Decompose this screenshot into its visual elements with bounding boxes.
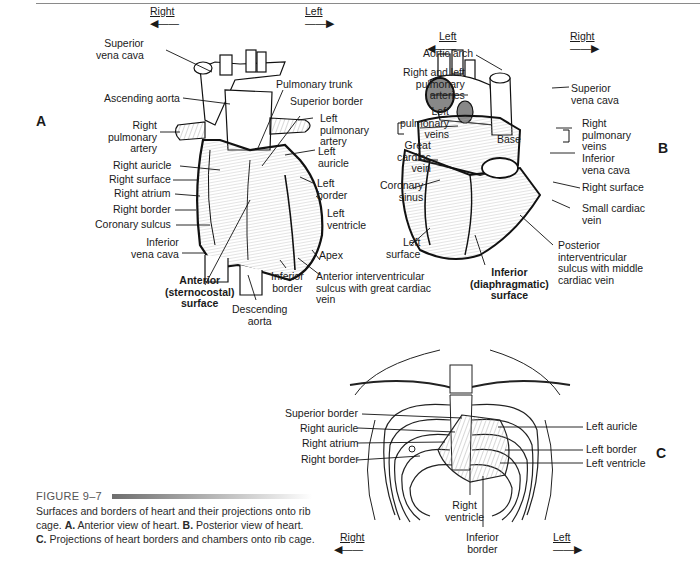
label-left-pulmonary-artery: Left pulmonary artery xyxy=(320,113,369,148)
figure-number-row: FIGURE 9–7 xyxy=(36,490,316,502)
label-inferior-border-c: Inferior border xyxy=(466,532,499,555)
label-posterior-interventricular-sulcus: Posterior interventricular sulcus with m… xyxy=(558,240,643,286)
label-anterior-interventricular-sulcus: Anterior interventricular sulcus with gr… xyxy=(316,271,431,306)
figure-caption-text: Surfaces and borders of heart and their … xyxy=(36,504,315,546)
label-right-auricle-c: Right auricle xyxy=(300,423,358,435)
label-left-auricle-c: Left auricle xyxy=(586,421,637,433)
label-right-surface-b: Right surface xyxy=(582,182,644,194)
label-inferior-vena-cava-b: Inferior vena cava xyxy=(582,153,630,176)
arrow-left-icon: ◀—— xyxy=(150,17,179,29)
label-coronary-sulcus-a: Coronary sulcus xyxy=(95,219,171,231)
label-great-cardiac-vein: Great cardiac vein xyxy=(397,140,431,175)
direction-right-b: Right ——▶ xyxy=(570,30,599,54)
label-right-pulmonary-artery: Right pulmonary artery xyxy=(108,120,157,155)
direction-left-a: Left ——▶ xyxy=(305,5,334,29)
arrow-left-icon: ◀—— xyxy=(334,543,363,555)
direction-right-c: Right ◀—— xyxy=(334,531,365,555)
label-left-border-c: Left border xyxy=(586,444,637,456)
label-left-surface: Left surface xyxy=(386,237,420,260)
label-superior-border-a: Superior border xyxy=(290,96,363,108)
label-left-border-a: Left border xyxy=(317,178,347,201)
label-left-auricle-a: Left auricle xyxy=(318,146,349,169)
arrow-right-icon: ——▶ xyxy=(305,17,334,29)
arrow-right-icon: ——▶ xyxy=(553,543,582,555)
label-inferior-border-a: Inferior border xyxy=(271,271,304,294)
direction-right-a: Right ◀—— xyxy=(150,5,179,29)
label-superior-vena-cava-a: Superior vena cava xyxy=(96,38,144,61)
label-left-ventricle-c: Left ventricle xyxy=(586,458,646,470)
label-aortic-arch: Aortic arch xyxy=(423,48,473,60)
label-ascending-aorta: Ascending aorta xyxy=(104,93,180,105)
label-right-auricle-a: Right auricle xyxy=(113,160,171,172)
arrow-right-icon: ——▶ xyxy=(570,42,599,54)
label-anterior-surface: Anterior (sternocostal) surface xyxy=(165,275,234,310)
label-right-atrium-c: Right atrium xyxy=(302,438,359,450)
label-descending-aorta: Descending aorta xyxy=(232,304,287,327)
figure-caption: FIGURE 9–7 Surfaces and borders of heart… xyxy=(36,490,316,546)
label-superior-vena-cava-b: Superior vena cava xyxy=(571,83,619,106)
label-inferior-surface: Inferior (diaphragmatic) surface xyxy=(470,267,549,302)
label-left-ventricle-a: Left ventricle xyxy=(327,208,366,231)
label-superior-border-c: Superior border xyxy=(285,408,358,420)
label-right-pulmonary-veins: Right pulmonary veins xyxy=(582,118,631,153)
label-small-cardiac-vein: Small cardiac vein xyxy=(582,203,645,226)
label-base: Base xyxy=(497,134,521,146)
panel-b-letter: B xyxy=(658,140,668,156)
label-pulmonary-arteries: Right and left pulmonary arteries xyxy=(403,67,465,102)
label-apex: Apex xyxy=(319,250,343,262)
rib-cage-drawing xyxy=(350,350,570,522)
label-inferior-vena-cava-a: Inferior vena cava xyxy=(131,237,179,260)
label-right-ventricle: Right ventricle xyxy=(445,500,484,523)
label-pulmonary-trunk: Pulmonary trunk xyxy=(276,79,352,91)
label-left-pulmonary-veins: Left pulmonary veins xyxy=(400,106,449,141)
label-right-border-a: Right border xyxy=(113,204,171,216)
panel-a-letter: A xyxy=(36,113,46,129)
label-right-surface-a: Right surface xyxy=(109,174,171,186)
label-right-atrium-a: Right atrium xyxy=(114,188,171,200)
label-right-border-c: Right border xyxy=(301,454,359,466)
panel-c-letter: C xyxy=(656,445,666,461)
caption-gradient-bar xyxy=(112,494,312,499)
direction-left-c: Left ——▶ xyxy=(553,531,582,555)
label-coronary-sinus: Coronary sinus xyxy=(380,180,423,203)
figure-number: FIGURE 9–7 xyxy=(36,490,102,502)
